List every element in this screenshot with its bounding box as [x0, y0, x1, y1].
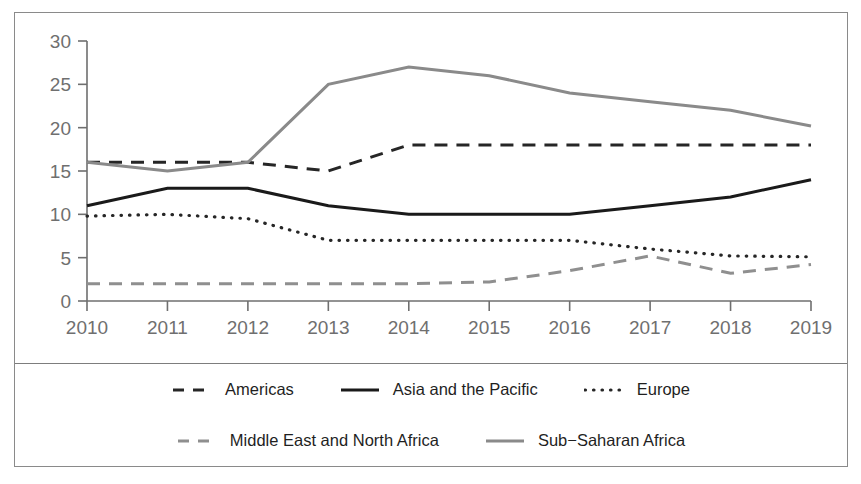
- series-line-asia-and-the-pacific: [87, 180, 811, 215]
- legend-swatch-solid: [340, 383, 380, 397]
- y-tick-label: 15: [50, 161, 71, 182]
- y-tick-label: 20: [50, 118, 71, 139]
- x-tick-label: 2015: [468, 317, 510, 338]
- legend-label: Europe: [637, 381, 690, 398]
- x-tick-label: 2010: [66, 317, 108, 338]
- series-line-europe: [87, 214, 811, 256]
- series-line-middle-east-and-north-africa: [87, 256, 811, 284]
- line-chart-canvas: 0510152025302010201120122013201420152016…: [15, 13, 849, 364]
- y-tick-label: 25: [50, 74, 71, 95]
- legend-line-swatch: [485, 434, 525, 448]
- legend-swatch-solid: [485, 434, 525, 448]
- figure-frame: 0510152025302010201120122013201420152016…: [14, 12, 848, 467]
- legend-item-middle-east-and-north-africa[interactable]: Middle East and North Africa: [177, 432, 439, 449]
- legend-line-swatch: [177, 434, 217, 448]
- y-tick-label: 30: [50, 31, 71, 52]
- legend-line-swatch: [172, 383, 212, 397]
- x-tick-label: 2019: [790, 317, 832, 338]
- legend-line-swatch: [584, 383, 624, 397]
- legend-item-sub-saharan-africa[interactable]: Sub−Saharan Africa: [485, 432, 685, 449]
- x-tick-label: 2014: [388, 317, 431, 338]
- y-tick-label: 10: [50, 204, 71, 225]
- legend-item-americas[interactable]: Americas: [172, 381, 294, 398]
- x-tick-label: 2012: [227, 317, 269, 338]
- y-tick-label: 0: [60, 291, 71, 312]
- legend-label: Asia and the Pacific: [393, 381, 538, 398]
- legend-swatch-dashed: [172, 383, 212, 397]
- legend-swatch-dashed: [177, 434, 217, 448]
- legend-row-secondary: Middle East and North AfricaSub−Saharan …: [15, 415, 847, 466]
- legend-item-asia-and-the-pacific[interactable]: Asia and the Pacific: [340, 381, 538, 398]
- y-tick-label: 5: [60, 248, 71, 269]
- x-tick-label: 2018: [709, 317, 751, 338]
- legend-row-primary: AmericasAsia and the PacificEurope: [15, 364, 847, 415]
- legend-label: Middle East and North Africa: [230, 432, 439, 449]
- legend-label: Sub−Saharan Africa: [538, 432, 685, 449]
- legend-swatch-dotted: [584, 383, 624, 397]
- legend-panel: AmericasAsia and the PacificEurope Middl…: [15, 364, 847, 466]
- x-tick-label: 2017: [629, 317, 671, 338]
- x-tick-label: 2013: [307, 317, 349, 338]
- plot-panel: 0510152025302010201120122013201420152016…: [15, 13, 847, 364]
- legend-item-europe[interactable]: Europe: [584, 381, 690, 398]
- x-tick-label: 2011: [147, 317, 188, 338]
- x-tick-label: 2016: [549, 317, 591, 338]
- legend-line-swatch: [340, 383, 380, 397]
- legend-label: Americas: [225, 381, 294, 398]
- series-line-sub-saharan-africa: [87, 67, 811, 171]
